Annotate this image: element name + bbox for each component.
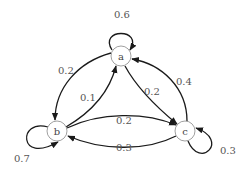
node-b-label: b bbox=[54, 126, 60, 137]
node-a: a bbox=[111, 46, 131, 66]
edge-label-c-b: 0.3 bbox=[116, 142, 132, 153]
markov-chain-diagram: a b c 0.6 0.2 0.1 0.2 0.4 0.2 0.3 0.7 0.… bbox=[0, 0, 244, 172]
edge-label-a-c: 0.2 bbox=[144, 86, 160, 97]
node-c: c bbox=[175, 121, 195, 141]
edge-label-b-a: 0.1 bbox=[80, 92, 96, 103]
edge-label-c-c: 0.3 bbox=[220, 145, 236, 156]
node-c-label: c bbox=[182, 126, 188, 137]
edge-label-b-c: 0.2 bbox=[116, 115, 132, 126]
edge-a-b bbox=[55, 53, 111, 120]
edge-label-b-b: 0.7 bbox=[14, 153, 30, 164]
node-b: b bbox=[47, 121, 67, 141]
edge-label-a-b: 0.2 bbox=[58, 65, 74, 76]
node-a-label: a bbox=[118, 51, 124, 62]
edge-label-c-a: 0.4 bbox=[176, 76, 192, 87]
edge-label-a-a: 0.6 bbox=[114, 9, 130, 20]
